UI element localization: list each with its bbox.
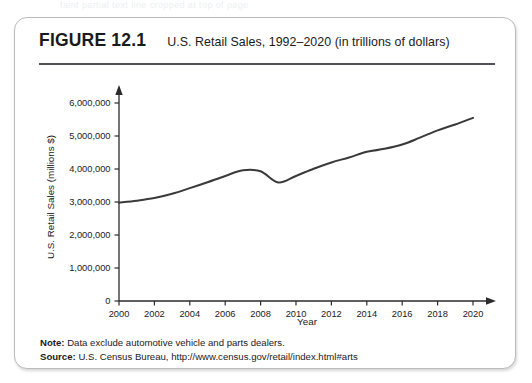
figure-header: FIGURE 12.1 U.S. Retail Sales, 1992–2020… (39, 30, 495, 60)
page-bleed-text: faint partial text line cropped at top o… (0, 0, 532, 14)
x-tick-label: 2006 (215, 309, 236, 319)
y-tick-label: 5,000,000 (69, 131, 110, 141)
figure-footnotes: Note: Data exclude automotive vehicle an… (40, 336, 490, 363)
note-label: Note: (40, 337, 65, 348)
y-tick-label: 3,000,000 (69, 197, 110, 207)
x-axis-tick-labels: 2000200220042006200820102012201420162018… (109, 309, 484, 319)
note-text: Data exclude automotive vehicle and part… (65, 337, 285, 348)
x-tick-label: 2000 (109, 309, 130, 319)
figure-title: U.S. Retail Sales, 1992–2020 (in trillio… (167, 35, 449, 49)
x-tick-label: 2004 (179, 309, 200, 319)
header-divider (39, 63, 495, 65)
y-axis: 01,000,0002,000,0003,000,0004,000,0005,0… (45, 85, 123, 306)
y-axis-arrowhead (115, 85, 122, 95)
retail-sales-line-chart: 01,000,0002,000,0003,000,0004,000,0005,0… (39, 70, 499, 325)
x-tick-label: 2014 (356, 309, 377, 319)
y-tick-label: 0 (105, 296, 110, 306)
x-tick-label: 2018 (427, 309, 448, 319)
x-tick-label: 2008 (250, 309, 271, 319)
source-text: U.S. Census Bureau, http://www.census.go… (76, 351, 358, 362)
source-label: Source: (40, 351, 76, 362)
retail-sales-series-line (119, 118, 473, 203)
x-axis-arrowhead (486, 297, 496, 304)
figure-number: FIGURE 12.1 (39, 30, 146, 51)
y-axis-tick-labels: 01,000,0002,000,0003,000,0004,000,0005,0… (69, 98, 110, 306)
x-axis-title: Year (297, 316, 318, 325)
chart-plot-area: 01,000,0002,000,0003,000,0004,000,0005,0… (39, 70, 499, 325)
x-tick-label: 2016 (392, 309, 413, 319)
figure-card: FIGURE 12.1 U.S. Retail Sales, 1992–2020… (14, 17, 516, 369)
x-tick-label: 2012 (321, 309, 342, 319)
note-row: Note: Data exclude automotive vehicle an… (40, 336, 490, 350)
y-tick-label: 1,000,000 (69, 263, 110, 273)
y-tick-label: 6,000,000 (69, 98, 110, 108)
x-axis: 2000200220042006200820102012201420162018… (109, 297, 496, 325)
x-tick-label: 2002 (144, 309, 165, 319)
y-axis-title: U.S. Retail Sales (millions $) (45, 135, 56, 259)
x-axis-ticks (119, 301, 473, 306)
source-row: Source: U.S. Census Bureau, http://www.c… (40, 350, 490, 364)
y-tick-label: 2,000,000 (69, 230, 110, 240)
x-tick-label: 2020 (463, 309, 484, 319)
y-tick-label: 4,000,000 (69, 164, 110, 174)
